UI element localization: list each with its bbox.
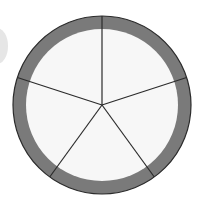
segmented-circle-diagram: [0, 0, 207, 212]
